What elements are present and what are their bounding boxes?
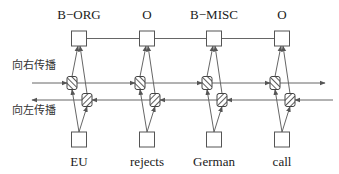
birnn-diagram: 向右传播 向左传播 B−ORGEUOrejectsB−MISCGermanOca… [0, 0, 339, 174]
forward-rnn-cell [270, 77, 280, 90]
forward-to-output-arrow [72, 46, 78, 77]
input-to-backward-arrow [79, 107, 87, 133]
forward-to-output-arrow [140, 46, 146, 77]
input-label: EU [70, 154, 88, 169]
backward-rnn-cell [217, 94, 227, 107]
input-node [72, 132, 87, 147]
backward-rnn-cell [150, 94, 160, 107]
input-to-backward-arrow [282, 107, 290, 133]
forward-rnn-cell [135, 77, 145, 90]
backward-rnn-cell [285, 94, 295, 107]
forward-rnn-cell [202, 77, 212, 90]
output-node [72, 31, 87, 46]
input-node [140, 132, 155, 147]
forward-to-output-arrow [275, 46, 281, 77]
output-node [275, 31, 290, 46]
output-node [140, 31, 155, 46]
input-to-backward-arrow [214, 107, 222, 133]
backward-direction-label: 向左传播 [12, 103, 56, 117]
input-label: German [193, 154, 235, 169]
input-node [207, 132, 222, 147]
nodes [67, 31, 295, 147]
output-label: O [142, 7, 151, 22]
input-to-backward-arrow [147, 107, 155, 133]
input-to-forward-arrow [207, 90, 214, 133]
forward-rnn-cell [67, 77, 77, 90]
backward-to-output-arrow [215, 46, 222, 94]
input-label: rejects [130, 154, 164, 169]
backward-to-output-arrow [283, 46, 290, 94]
forward-direction-label: 向右传播 [12, 58, 56, 72]
output-label: B−MISC [190, 7, 238, 22]
forward-to-output-arrow [207, 46, 213, 77]
input-to-forward-arrow [275, 90, 282, 133]
output-label: B−ORG [57, 7, 100, 22]
backward-rnn-cell [82, 94, 92, 107]
input-node [275, 132, 290, 147]
output-label: O [277, 7, 286, 22]
backward-to-output-arrow [80, 46, 87, 94]
input-to-forward-arrow [72, 90, 79, 133]
output-node [207, 31, 222, 46]
input-to-forward-arrow [140, 90, 147, 133]
backward-to-output-arrow [148, 46, 155, 94]
input-label: call [273, 154, 292, 169]
